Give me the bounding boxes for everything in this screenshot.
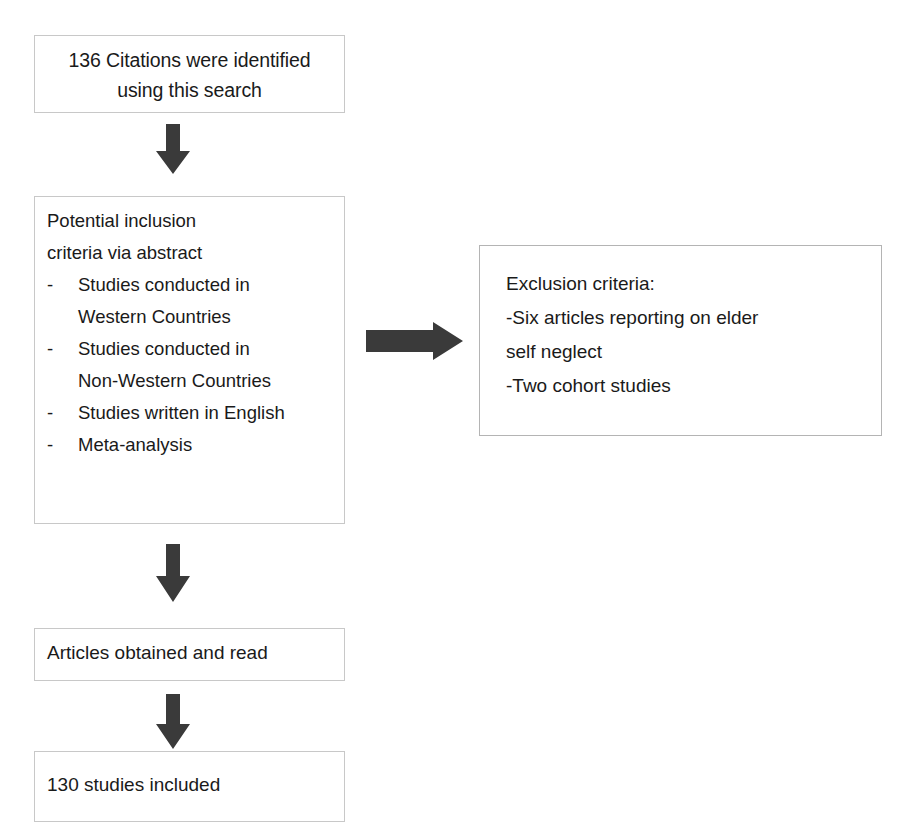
- down-arrow-icon: [153, 124, 193, 174]
- bullet-dash-icon: -: [47, 429, 61, 461]
- node-articles-text: Articles obtained and read: [47, 638, 338, 668]
- flowchart-canvas: 136 Citations were identified using this…: [0, 0, 904, 840]
- list-item-line1: Meta-analysis: [78, 429, 340, 461]
- list-item-line1: Studies written in English: [78, 397, 340, 429]
- list-item-text: Meta-analysis: [78, 429, 340, 461]
- list-item-line2: Western Countries: [78, 301, 340, 333]
- bullet-dash-icon: -: [47, 269, 61, 301]
- node-included-label: 130 studies included: [47, 770, 338, 800]
- node-inclusion-criteria: Potential inclusion criteria via abstrac…: [34, 196, 345, 524]
- node-studies-included: 130 studies included: [34, 751, 345, 822]
- list-item-text: Studies written in English: [78, 397, 340, 429]
- node-articles-label: Articles obtained and read: [47, 638, 338, 668]
- node-citations-line2: using this search: [43, 75, 336, 105]
- list-item-line2: Non-Western Countries: [78, 365, 340, 397]
- inclusion-criteria-list: - Studies conducted in Western Countries…: [47, 269, 340, 461]
- node-citations-line1: 136 Citations were identified: [43, 45, 336, 75]
- list-item: - Meta-analysis: [47, 429, 340, 461]
- down-arrow-icon: [153, 694, 193, 749]
- bullet-dash-icon: -: [47, 333, 61, 365]
- node-exclusion-line2: self neglect: [506, 335, 871, 369]
- node-exclusion-line3: -Two cohort studies: [506, 369, 871, 403]
- node-included-text: 130 studies included: [47, 770, 338, 800]
- node-articles-obtained: Articles obtained and read: [34, 628, 345, 681]
- list-item: - Studies conducted in Western Countries: [47, 269, 340, 333]
- node-inclusion-heading-line1: Potential inclusion: [47, 205, 338, 237]
- node-inclusion-heading: Potential inclusion criteria via abstrac…: [47, 205, 338, 269]
- node-exclusion-criteria: Exclusion criteria: -Six articles report…: [479, 245, 882, 436]
- list-item-line1: Studies conducted in: [78, 269, 340, 301]
- list-item-text: Studies conducted in Western Countries: [78, 269, 340, 333]
- list-item-line1: Studies conducted in: [78, 333, 340, 365]
- node-exclusion-text: Exclusion criteria: -Six articles report…: [506, 267, 871, 403]
- down-arrow-icon: [153, 544, 193, 602]
- node-inclusion-heading-line2: criteria via abstract: [47, 237, 338, 269]
- list-item: - Studies conducted in Non-Western Count…: [47, 333, 340, 397]
- node-citations-text: 136 Citations were identified using this…: [43, 45, 336, 105]
- right-arrow-icon: [366, 322, 463, 362]
- list-item: - Studies written in English: [47, 397, 340, 429]
- bullet-dash-icon: -: [47, 397, 61, 429]
- list-item-text: Studies conducted in Non-Western Countri…: [78, 333, 340, 397]
- node-exclusion-heading: Exclusion criteria:: [506, 267, 871, 301]
- node-citations-identified: 136 Citations were identified using this…: [34, 35, 345, 113]
- node-exclusion-line1: -Six articles reporting on elder: [506, 301, 871, 335]
